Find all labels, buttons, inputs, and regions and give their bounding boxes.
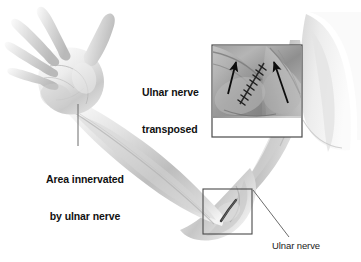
label-area-innervated: Area innervated by ulnar nerve [22,148,148,247]
medical-illustration-figure: Ulnar nerve transposed Area innervated b… [0,0,361,262]
label-innervated-line2: by ulnar nerve [22,210,148,222]
label-ulnar-nerve-transposed: Ulnar nerve transposed [142,61,199,160]
label-ulnar-nerve: Ulnar nerve [272,240,320,251]
transposed-inset [210,45,302,137]
label-transposed-line1: Ulnar nerve [142,86,199,98]
label-innervated-line1: Area innervated [22,173,148,185]
label-transposed-line2: transposed [142,123,199,135]
